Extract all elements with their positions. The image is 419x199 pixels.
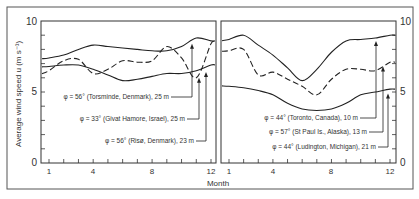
left-ytick-10: 10: [26, 16, 38, 27]
annotation-st-paul: φ = 57° (St Paul Is., Alaska), 13 m: [269, 128, 367, 136]
right-ytick-0: 0: [400, 157, 406, 168]
right-xtick-1: 1: [227, 167, 232, 176]
right-ytick-5: 5: [400, 86, 406, 97]
left-xtick-4: 4: [91, 167, 96, 176]
right-plot-frame: [221, 21, 396, 163]
annotation-givat-hamore: φ = 33° (Givat Hamore, Israel), 25 m: [80, 115, 185, 123]
annotation-riso: φ = 56° (Risø, Denmark), 23 m: [105, 137, 194, 145]
right-xtick-12: 12: [386, 167, 395, 176]
annotation-toronto: φ = 44° (Toronto, Canada), 10 m: [264, 114, 358, 122]
annotation-torsminde: φ = 56° (Torsminde, Denmark), 25 m: [63, 93, 169, 101]
left-xtick-8: 8: [150, 167, 155, 176]
series-line-0-0: [42, 38, 215, 59]
x-axis-label: Month: [207, 179, 229, 188]
left-xtick-1: 1: [47, 167, 52, 176]
left-ytick-5: 5: [31, 86, 37, 97]
series-line-0-2: [42, 65, 215, 81]
right-xtick-4: 4: [271, 167, 276, 176]
right-ytick-10: 10: [400, 16, 412, 27]
y-axis-label: Average wind speed u (m s⁻¹): [14, 41, 23, 147]
series-line-1-2: [222, 86, 395, 111]
left-xtick-12: 12: [207, 167, 216, 176]
right-xtick-8: 8: [329, 167, 334, 176]
annotation-ludington: φ = 44° (Ludington, Michigan), 21 m: [272, 143, 376, 151]
series-line-1-0: [222, 35, 395, 81]
left-ytick-0: 0: [31, 157, 37, 168]
wind-speed-chart: 10 5 0 10 5 0 1 4 8 12 1 4 8 12 Month Av…: [0, 0, 419, 199]
